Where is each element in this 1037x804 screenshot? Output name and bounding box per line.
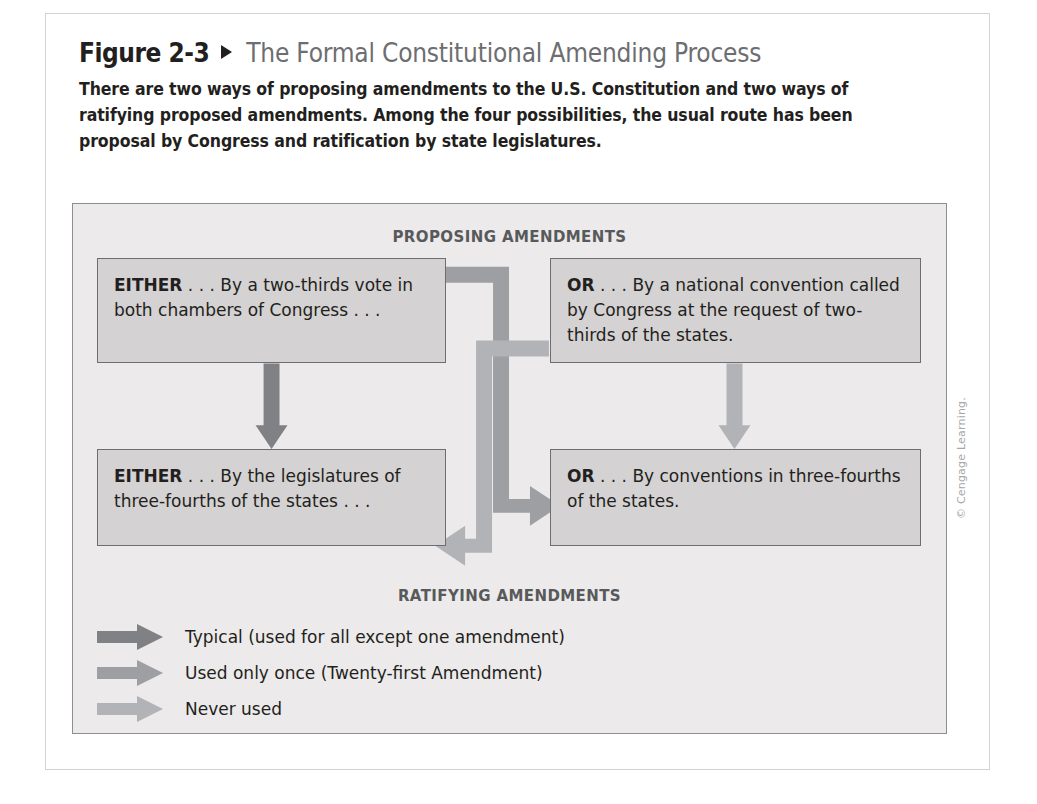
diagram-panel: PROPOSING AMENDMENTS RATIFYING AMENDMENT… (72, 203, 947, 734)
node-ellipsis: . . . (595, 275, 633, 295)
node-either-congress-vote: EITHER . . . By a two-thirds vote in bot… (97, 258, 446, 363)
node-or-national-convention: OR . . . By a national convention called… (550, 258, 921, 363)
figure-page: Figure 2-3The Formal Constitutional Amen… (45, 13, 990, 770)
legend: Typical (used for all except one amendme… (97, 619, 565, 727)
node-lead: EITHER (114, 275, 182, 295)
figure-number: Figure 2-3 (79, 38, 209, 68)
legend-label: Used only once (Twenty-first Amendment) (185, 663, 543, 683)
node-lead: OR (567, 466, 595, 486)
arrow-never-used-icon (97, 696, 163, 722)
node-either-state-legislatures: EITHER . . . By the legislatures of thre… (97, 449, 446, 546)
legend-label: Never used (185, 699, 282, 719)
arrow-used-once-icon (97, 660, 163, 686)
arrow-used-once-crossing (445, 267, 560, 526)
arrow-never-used-right (719, 363, 751, 449)
node-lead: EITHER (114, 466, 182, 486)
triangle-right-icon (221, 45, 232, 59)
node-lead: OR (567, 275, 595, 295)
figure-title: The Formal Constitutional Amending Proce… (246, 38, 761, 68)
legend-label: Typical (used for all except one amendme… (185, 627, 565, 647)
figure-caption: There are two ways of proposing amendmen… (79, 76, 919, 154)
arrow-typical-left (256, 363, 288, 449)
node-ellipsis: . . . (595, 466, 633, 486)
node-ellipsis: . . . (182, 275, 220, 295)
legend-item-used-once: Used only once (Twenty-first Amendment) (97, 655, 565, 691)
arrow-typical-icon (97, 624, 163, 650)
node-ellipsis: . . . (182, 466, 220, 486)
figure-header: Figure 2-3The Formal Constitutional Amen… (79, 38, 939, 68)
legend-item-typical: Typical (used for all except one amendme… (97, 619, 565, 655)
node-or-state-conventions: OR . . . By conventions in three-fourths… (550, 449, 921, 546)
legend-item-never-used: Never used (97, 691, 565, 727)
copyright-credit: © Cengage Learning. (955, 397, 968, 519)
arrow-crossing-to-bottom-left (435, 340, 549, 565)
